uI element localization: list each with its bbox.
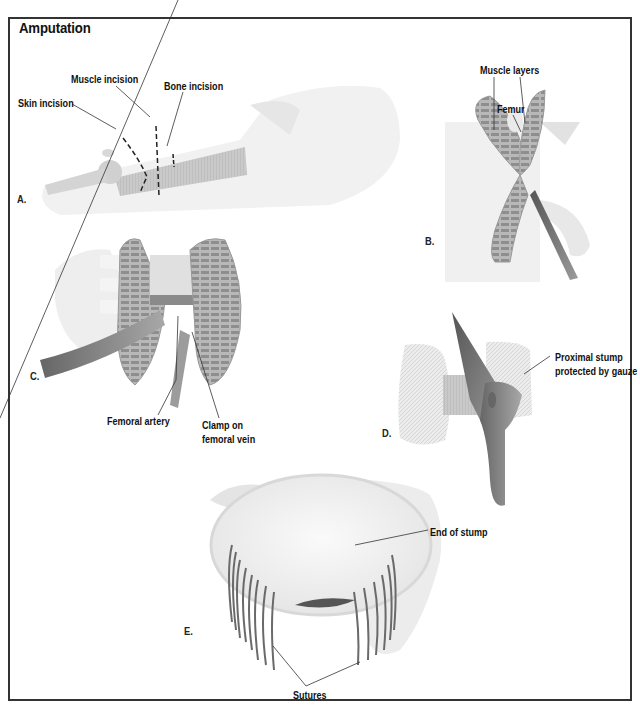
- panel-e-illustration: [210, 475, 441, 686]
- label-sutures: Sutures: [293, 688, 327, 702]
- label-femoral-vein: femoral vein: [202, 432, 255, 446]
- label-femoral-artery: Femoral artery: [107, 414, 170, 428]
- label-muscle-incision: Muscle incision: [71, 72, 138, 86]
- label-bone-incision: Bone incision: [164, 79, 223, 93]
- label-proximal-stump: Proximal stump: [555, 350, 623, 364]
- label-protected-by-gauze: protected by gauze: [555, 364, 637, 378]
- label-muscle-layers: Muscle layers: [480, 63, 539, 77]
- label-clamp-on: Clamp on: [202, 418, 243, 432]
- panel-letter-d: D.: [382, 427, 391, 439]
- panel-letter-a: A.: [17, 193, 26, 205]
- panel-letter-b: B.: [425, 235, 434, 247]
- label-skin-incision: Skin incision: [18, 96, 74, 110]
- panel-a-illustration: [42, 86, 400, 215]
- panel-d-illustration: [398, 312, 550, 506]
- panel-letter-c: C.: [30, 370, 39, 382]
- illustration-canvas: [0, 0, 640, 722]
- label-end-of-stump: End of stump: [430, 525, 488, 539]
- panel-letter-e: E.: [184, 625, 193, 637]
- label-femur: Femur: [497, 102, 525, 116]
